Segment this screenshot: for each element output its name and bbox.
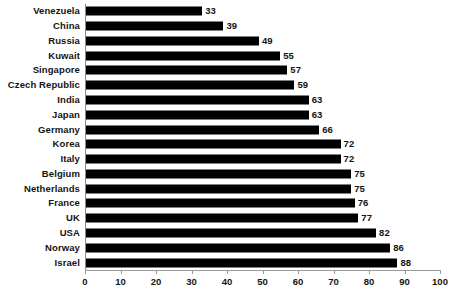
- bar-row: UK77: [0, 211, 458, 226]
- bar: [86, 140, 341, 149]
- category-label: Israel: [55, 258, 80, 268]
- x-tick-label: 90: [399, 277, 410, 287]
- bar: [86, 199, 355, 208]
- category-label: UK: [66, 214, 80, 224]
- bar-value-label: 72: [344, 140, 355, 150]
- bar-row: Korea72: [0, 137, 458, 152]
- bar: [86, 258, 397, 267]
- bar-value-label: 76: [358, 199, 369, 209]
- category-label: Norway: [45, 243, 80, 253]
- bar: [86, 229, 376, 238]
- category-label: USA: [60, 228, 80, 238]
- x-tick-mark: [263, 270, 264, 274]
- bar: [86, 110, 309, 119]
- bar-value-label: 66: [322, 125, 333, 135]
- bar-value-label: 33: [205, 7, 216, 17]
- bar: [86, 243, 390, 252]
- category-label: Czech Republic: [8, 81, 80, 91]
- category-label: Venezuela: [33, 7, 80, 17]
- bar-row: Czech Republic59: [0, 78, 458, 93]
- bar-value-label: 75: [354, 169, 365, 179]
- bar: [86, 36, 259, 45]
- bar: [86, 51, 280, 60]
- bar: [86, 22, 223, 31]
- bar-value-label: 86: [393, 243, 404, 253]
- bar: [86, 81, 294, 90]
- bar-row: France76: [0, 196, 458, 211]
- bar-rows: Venezuela33China39Russia49Kuwait55Singap…: [0, 4, 458, 270]
- bar: [86, 125, 319, 134]
- x-tick-label: 50: [257, 277, 268, 287]
- bar: [86, 96, 309, 105]
- bar-row: India63: [0, 93, 458, 108]
- category-label: France: [48, 199, 80, 209]
- x-tick-mark: [334, 270, 335, 274]
- x-tick-label: 10: [115, 277, 126, 287]
- bar-value-label: 88: [400, 258, 411, 268]
- bar: [86, 155, 341, 164]
- x-tick-mark: [192, 270, 193, 274]
- category-label: Japan: [52, 110, 80, 120]
- category-label: Italy: [60, 154, 80, 164]
- bar-row: USA82: [0, 226, 458, 241]
- bar-value-label: 39: [226, 21, 237, 31]
- category-label: Netherlands: [24, 184, 80, 194]
- x-tick-mark: [156, 270, 157, 274]
- bar-row: China39: [0, 19, 458, 34]
- category-label: India: [57, 95, 80, 105]
- bar-row: Russia49: [0, 34, 458, 49]
- x-tick-label: 80: [364, 277, 375, 287]
- bar-chart: Venezuela33China39Russia49Kuwait55Singap…: [0, 0, 458, 303]
- bar-row: Norway86: [0, 240, 458, 255]
- bar-row: Netherlands75: [0, 181, 458, 196]
- bar-value-label: 59: [297, 81, 308, 91]
- x-tick-label: 30: [186, 277, 197, 287]
- bar-row: Italy72: [0, 152, 458, 167]
- bar-row: Singapore57: [0, 63, 458, 78]
- category-label: China: [53, 21, 80, 31]
- x-tick-mark: [298, 270, 299, 274]
- category-label: Russia: [48, 36, 80, 46]
- category-label: Germany: [38, 125, 80, 135]
- bar: [86, 184, 351, 193]
- x-tick-mark: [440, 270, 441, 274]
- bar-row: Venezuela33: [0, 4, 458, 19]
- bar: [86, 214, 358, 223]
- x-tick-mark: [85, 270, 86, 274]
- category-label: Singapore: [33, 66, 80, 76]
- bar-row: Kuwait55: [0, 48, 458, 63]
- x-tick-label: 40: [222, 277, 233, 287]
- bar-value-label: 82: [379, 228, 390, 238]
- x-tick-label: 70: [328, 277, 339, 287]
- x-tick-label: 20: [151, 277, 162, 287]
- bar-value-label: 63: [312, 110, 323, 120]
- x-tick-mark: [369, 270, 370, 274]
- bar-value-label: 49: [262, 36, 273, 46]
- x-tick-mark: [121, 270, 122, 274]
- bar-value-label: 75: [354, 184, 365, 194]
- bar: [86, 7, 202, 16]
- x-tick-mark: [405, 270, 406, 274]
- category-label: Korea: [53, 140, 80, 150]
- x-tick-label: 60: [293, 277, 304, 287]
- bar-value-label: 57: [290, 66, 301, 76]
- category-label: Belgium: [42, 169, 80, 179]
- x-tick-label: 100: [432, 277, 448, 287]
- x-tick-label: 0: [82, 277, 87, 287]
- category-label: Kuwait: [48, 51, 80, 61]
- bar-value-label: 63: [312, 95, 323, 105]
- x-axis-ticks: 0102030405060708090100: [0, 270, 458, 303]
- bar: [86, 66, 287, 75]
- bar: [86, 169, 351, 178]
- bar-row: Germany66: [0, 122, 458, 137]
- bar-value-label: 55: [283, 51, 294, 61]
- bar-value-label: 72: [344, 154, 355, 164]
- bar-row: Belgium75: [0, 167, 458, 182]
- bar-row: Israel88: [0, 255, 458, 270]
- bar-row: Japan63: [0, 107, 458, 122]
- x-tick-mark: [227, 270, 228, 274]
- bar-value-label: 77: [361, 214, 372, 224]
